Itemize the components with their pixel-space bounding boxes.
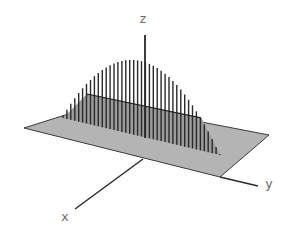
3d-diagram [0, 0, 291, 226]
y-axis-label: y [265, 177, 273, 190]
z-axis-label: z [139, 12, 147, 25]
x-axis-label: x [61, 210, 69, 223]
x-axis-line [75, 159, 143, 209]
y-axis-line [220, 177, 258, 186]
